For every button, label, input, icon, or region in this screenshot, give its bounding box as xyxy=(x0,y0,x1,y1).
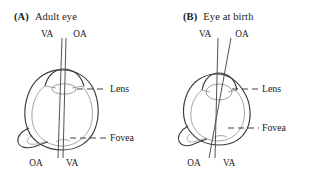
optic-nerve-b xyxy=(178,126,207,146)
lens-label-b: Lens xyxy=(262,83,281,94)
oa-label-top-a: OA xyxy=(73,29,87,39)
lens-a xyxy=(52,84,76,94)
retina-outline-a xyxy=(32,86,93,146)
sclera-outline-a xyxy=(25,70,98,150)
fovea-label-a: Fovea xyxy=(110,132,135,143)
va-label-top-b: VA xyxy=(199,29,212,39)
eye-axes-figure: (A)Adult eye VA OA xyxy=(0,0,312,177)
va-label-bottom-a: VA xyxy=(66,158,79,168)
panel-b-diagram: VA OA OA VA Lens Fovea xyxy=(156,0,312,177)
lens-label-a: Lens xyxy=(110,83,129,94)
panel-adult-eye: (A)Adult eye VA OA xyxy=(0,0,156,177)
oa-label-bottom-b: OA xyxy=(187,158,201,168)
retina-outline-b xyxy=(191,90,245,141)
oa-label-bottom-a: OA xyxy=(29,158,43,168)
oa-label-top-b: OA xyxy=(235,29,249,39)
fovea-label-b: Fovea xyxy=(262,122,287,133)
va-label-bottom-b: VA xyxy=(223,158,236,168)
panel-a-diagram: VA OA OA VA Lens Fovea xyxy=(0,0,156,177)
va-label-top-a: VA xyxy=(41,29,54,39)
visual-axis-line-b xyxy=(215,38,218,158)
panel-newborn-eye: (B)Eye at birth VA OA xyxy=(156,0,312,177)
